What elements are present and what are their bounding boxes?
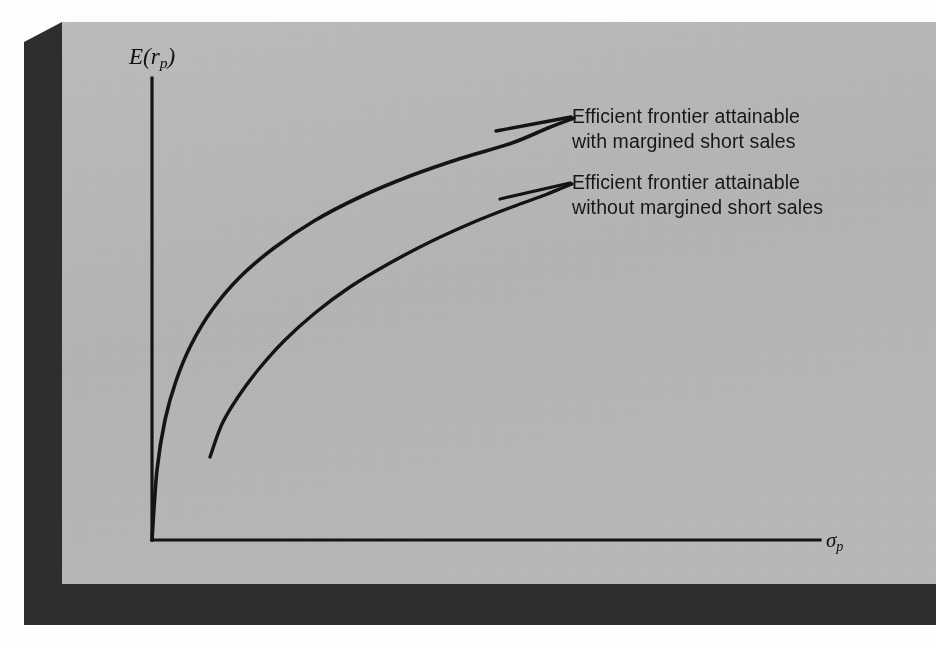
annotation-with-short-sales: Efficient frontier attainable with margi… xyxy=(572,104,800,154)
sigma-glyph: σ xyxy=(826,528,836,552)
y-axis-label-main: E(r xyxy=(129,44,160,69)
x-axis-label-subscript: p xyxy=(836,538,843,554)
y-axis-label: E(rp) xyxy=(129,44,175,72)
annotation-upper-line-2: with margined short sales xyxy=(572,129,800,154)
annotation-lower-line-1: Efficient frontier attainable xyxy=(572,170,823,195)
annotation-upper-line-1: Efficient frontier attainable xyxy=(572,104,800,129)
annotation-without-short-sales: Efficient frontier attainable without ma… xyxy=(572,170,823,220)
annotation-lower-line-2: without margined short sales xyxy=(572,195,823,220)
y-axis-label-close: ) xyxy=(167,44,175,69)
figure-root: E(rp) σp Efficient frontier attainable w… xyxy=(0,0,936,646)
chart-panel-tone xyxy=(62,22,936,584)
drop-shadow-bevel-bottom-right xyxy=(880,584,936,625)
figure-canvas xyxy=(0,0,936,646)
x-axis-label: σp xyxy=(826,528,844,555)
